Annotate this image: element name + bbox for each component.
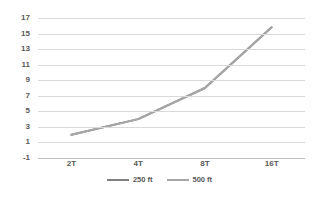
- y-axis: 1715131197531-1: [0, 18, 34, 158]
- legend-label: 250 ft: [133, 176, 153, 184]
- gridline: [38, 96, 305, 97]
- line-chart: 1715131197531-1 2T4T8T16T 250 ft500 ft: [0, 0, 319, 198]
- x-tick-label: 2T: [67, 160, 76, 168]
- legend-label: 500 ft: [193, 176, 213, 184]
- y-tick-label: -1: [23, 154, 30, 162]
- y-tick-label: 9: [26, 76, 30, 84]
- gridline: [38, 127, 305, 128]
- chart-legend: 250 ft500 ft: [0, 176, 319, 184]
- y-tick-label: 7: [26, 92, 30, 100]
- legend-swatch-icon: [107, 179, 129, 181]
- gridline: [38, 18, 305, 19]
- legend-item[interactable]: 500 ft: [167, 176, 213, 184]
- gridline: [38, 80, 305, 81]
- y-tick-label: 15: [21, 30, 30, 38]
- y-tick-label: 1: [26, 138, 30, 146]
- y-tick-label: 13: [21, 45, 30, 53]
- legend-swatch-icon: [167, 179, 189, 181]
- y-tick-label: 5: [26, 107, 30, 115]
- gridline: [38, 49, 305, 50]
- y-tick-label: 11: [22, 61, 30, 69]
- gridline: [38, 142, 305, 143]
- series-layer: [38, 18, 305, 158]
- legend-item[interactable]: 250 ft: [107, 176, 153, 184]
- y-tick-label: 3: [26, 123, 30, 131]
- gridline: [38, 65, 305, 66]
- gridline: [38, 111, 305, 112]
- y-tick-label: 17: [21, 14, 30, 22]
- x-tick-label: 4T: [133, 160, 142, 168]
- gridline: [38, 34, 305, 35]
- x-tick-label: 16T: [265, 160, 279, 168]
- plot-area: [38, 18, 305, 158]
- x-axis: 2T4T8T16T: [38, 160, 305, 172]
- x-tick-label: 8T: [200, 160, 209, 168]
